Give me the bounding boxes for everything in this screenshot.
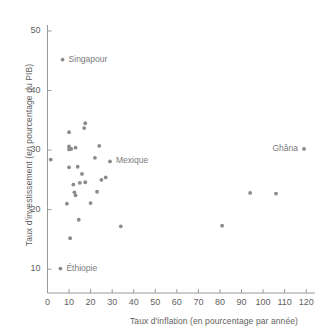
data-point <box>65 202 69 206</box>
data-point <box>220 224 224 228</box>
chart-canvas <box>0 0 323 335</box>
data-point <box>83 180 87 184</box>
point-label-éthiopie: Éthiopie <box>66 263 97 273</box>
data-point <box>83 121 87 125</box>
point-label-mexique: Mexique <box>116 155 148 165</box>
data-point-éthiopie <box>59 267 63 271</box>
data-point <box>99 178 103 182</box>
point-label-singapour: Singapour <box>69 54 108 64</box>
chart-data-points <box>49 58 306 271</box>
data-point <box>93 156 97 160</box>
y-tick-label-50: 50 <box>14 25 41 35</box>
data-point <box>71 183 75 187</box>
data-point <box>248 191 252 195</box>
chart-tick-marks <box>48 31 307 293</box>
data-point <box>119 224 123 228</box>
data-point <box>80 172 84 176</box>
data-point <box>74 193 78 197</box>
data-point <box>68 236 72 240</box>
data-point <box>67 130 71 134</box>
data-point <box>89 201 93 205</box>
data-point-ghâna <box>302 147 306 151</box>
data-point <box>49 158 53 162</box>
y-axis-title: Taux d'investissement (en pourcentage du… <box>24 40 34 270</box>
data-point-mexique <box>108 159 112 163</box>
x-axis-title: Taux d'inflation (en pourcentage par ann… <box>130 316 298 326</box>
data-point-singapour <box>61 58 65 62</box>
data-point <box>82 126 86 130</box>
x-tick-label-120: 120 <box>292 297 320 307</box>
point-label-ghâna: Ghâna <box>0 143 298 153</box>
data-point <box>67 165 71 169</box>
data-point <box>77 218 81 222</box>
data-point <box>274 192 278 196</box>
data-point <box>95 190 99 194</box>
data-point <box>76 165 80 169</box>
data-point <box>104 176 108 180</box>
chart-axes <box>48 25 316 293</box>
data-point <box>78 181 82 185</box>
scatter-chart-figure: 01020304050607080901001101201020304050 S… <box>0 0 323 335</box>
